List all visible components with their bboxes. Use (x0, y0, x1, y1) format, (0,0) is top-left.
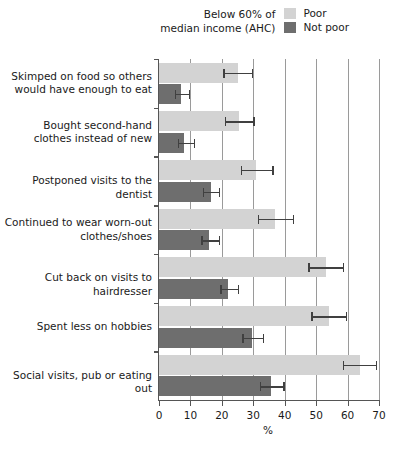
error-bar-cap (189, 90, 190, 99)
error-bar-cap (346, 312, 347, 321)
error-bar (258, 219, 293, 220)
error-bar-cap (263, 334, 264, 343)
error-bar-cap (178, 139, 179, 148)
error-bar-cap (219, 236, 220, 245)
error-bar-cap (241, 166, 242, 175)
y-axis-category-label-line: Spent less on hobbies (0, 320, 152, 334)
error-bar-cap (253, 117, 254, 126)
error-bar (308, 267, 343, 268)
error-bar-cap (272, 166, 273, 175)
legend-note-line-2: median income (AHC) (160, 21, 275, 35)
bar-not-poor (159, 279, 228, 299)
x-axis-tick-label: 40 (278, 409, 291, 421)
x-axis-tick (285, 400, 286, 406)
gridline (253, 59, 254, 400)
error-bar-cap (219, 188, 220, 197)
y-axis-category-label-line: would have enough to eat (0, 83, 152, 97)
legend-item-poor: Poor (284, 6, 349, 20)
error-bar-cap (252, 69, 253, 78)
y-axis-labels: Skimped on food so otherswould have enou… (0, 59, 152, 400)
legend-label-poor: Poor (303, 6, 326, 20)
plot-area: 010203040506070 (158, 59, 379, 401)
bar-not-poor (159, 376, 271, 396)
y-axis-tick (154, 59, 159, 60)
error-bar-cap (201, 236, 202, 245)
x-axis-tick (316, 400, 317, 406)
x-axis-tick-label: 0 (156, 409, 163, 421)
error-bar-cap (242, 334, 243, 343)
y-axis-category-label: Spent less on hobbies (0, 320, 152, 334)
error-bar (225, 121, 253, 122)
legend-note-line-1: Below 60% of (160, 7, 275, 21)
y-axis-category-label-line: clothes instead of new (0, 132, 152, 146)
error-bar-cap (258, 215, 259, 224)
x-axis-tick-label: 10 (184, 409, 197, 421)
error-bar (201, 240, 218, 241)
x-axis-tick (159, 400, 160, 406)
error-bar (223, 73, 251, 74)
y-axis-category-label-line: Postponed visits to the dentist (0, 174, 152, 201)
x-axis-title: % (158, 424, 378, 436)
error-bar-cap (225, 117, 226, 126)
error-bar (242, 338, 262, 339)
legend-swatch-not-poor (284, 22, 296, 33)
error-bar (175, 94, 189, 95)
error-bar-cap (238, 285, 239, 294)
y-axis-tick (154, 156, 159, 157)
y-axis-category-label-line: clothes/shoes (0, 230, 152, 244)
gridline (285, 59, 286, 400)
error-bar-cap (220, 285, 221, 294)
error-bar-cap (203, 188, 204, 197)
error-bar (343, 365, 376, 366)
x-axis-tick (222, 400, 223, 406)
y-axis-category-label-line: Continued to wear worn-out (0, 216, 152, 230)
error-bar-cap (175, 90, 176, 99)
y-axis-category-label: Postponed visits to the dentist (0, 174, 152, 201)
y-axis-tick (154, 205, 159, 206)
error-bar (178, 143, 194, 144)
error-bar-cap (283, 382, 284, 391)
y-axis-category-label-line: Social visits, pub or eating out (0, 369, 152, 396)
y-axis-category-label: Bought second-handclothes instead of new (0, 119, 152, 146)
gridline (316, 59, 317, 400)
legend-item-not-poor: Not poor (284, 20, 349, 34)
y-axis-category-label-line: Skimped on food so others (0, 70, 152, 84)
error-bar (241, 170, 272, 171)
x-axis-tick-label: 50 (309, 409, 322, 421)
gridline (222, 59, 223, 400)
error-bar (203, 192, 219, 193)
y-axis-category-label-line: Bought second-hand (0, 119, 152, 133)
y-axis-tick (154, 351, 159, 352)
y-axis-tick (154, 303, 159, 304)
legend-keys: Poor Not poor (284, 6, 349, 34)
error-bar-cap (293, 215, 294, 224)
error-bar-cap (343, 361, 344, 370)
chart-legend: Below 60% of median income (AHC) Poor No… (0, 6, 407, 35)
legend-note: Below 60% of median income (AHC) (160, 6, 275, 35)
error-bar-cap (376, 361, 377, 370)
x-axis-tick-label: 60 (341, 409, 354, 421)
x-axis-tick (190, 400, 191, 406)
bar-poor (159, 257, 326, 277)
y-axis-category-label: Continued to wear worn-outclothes/shoes (0, 216, 152, 243)
x-axis-tick (348, 400, 349, 406)
x-axis-tick-label: 20 (215, 409, 228, 421)
y-axis-category-label: Skimped on food so otherswould have enou… (0, 70, 152, 97)
error-bar (311, 316, 346, 317)
y-axis-category-label: Social visits, pub or eating out (0, 369, 152, 396)
bar-not-poor (159, 328, 252, 348)
gridline (379, 59, 380, 400)
y-axis-tick (154, 254, 159, 255)
y-axis-category-label-line: Cut back on visits to hairdresser (0, 271, 152, 298)
x-axis-tick (253, 400, 254, 406)
error-bar (260, 386, 284, 387)
gridline (348, 59, 349, 400)
legend-label-not-poor: Not poor (303, 20, 349, 34)
error-bar-cap (260, 382, 261, 391)
bar-poor (159, 306, 329, 326)
x-axis-tick (379, 400, 380, 406)
y-axis-tick (154, 108, 159, 109)
error-bar-cap (223, 69, 224, 78)
error-bar-cap (308, 263, 309, 272)
legend-swatch-poor (284, 8, 296, 19)
